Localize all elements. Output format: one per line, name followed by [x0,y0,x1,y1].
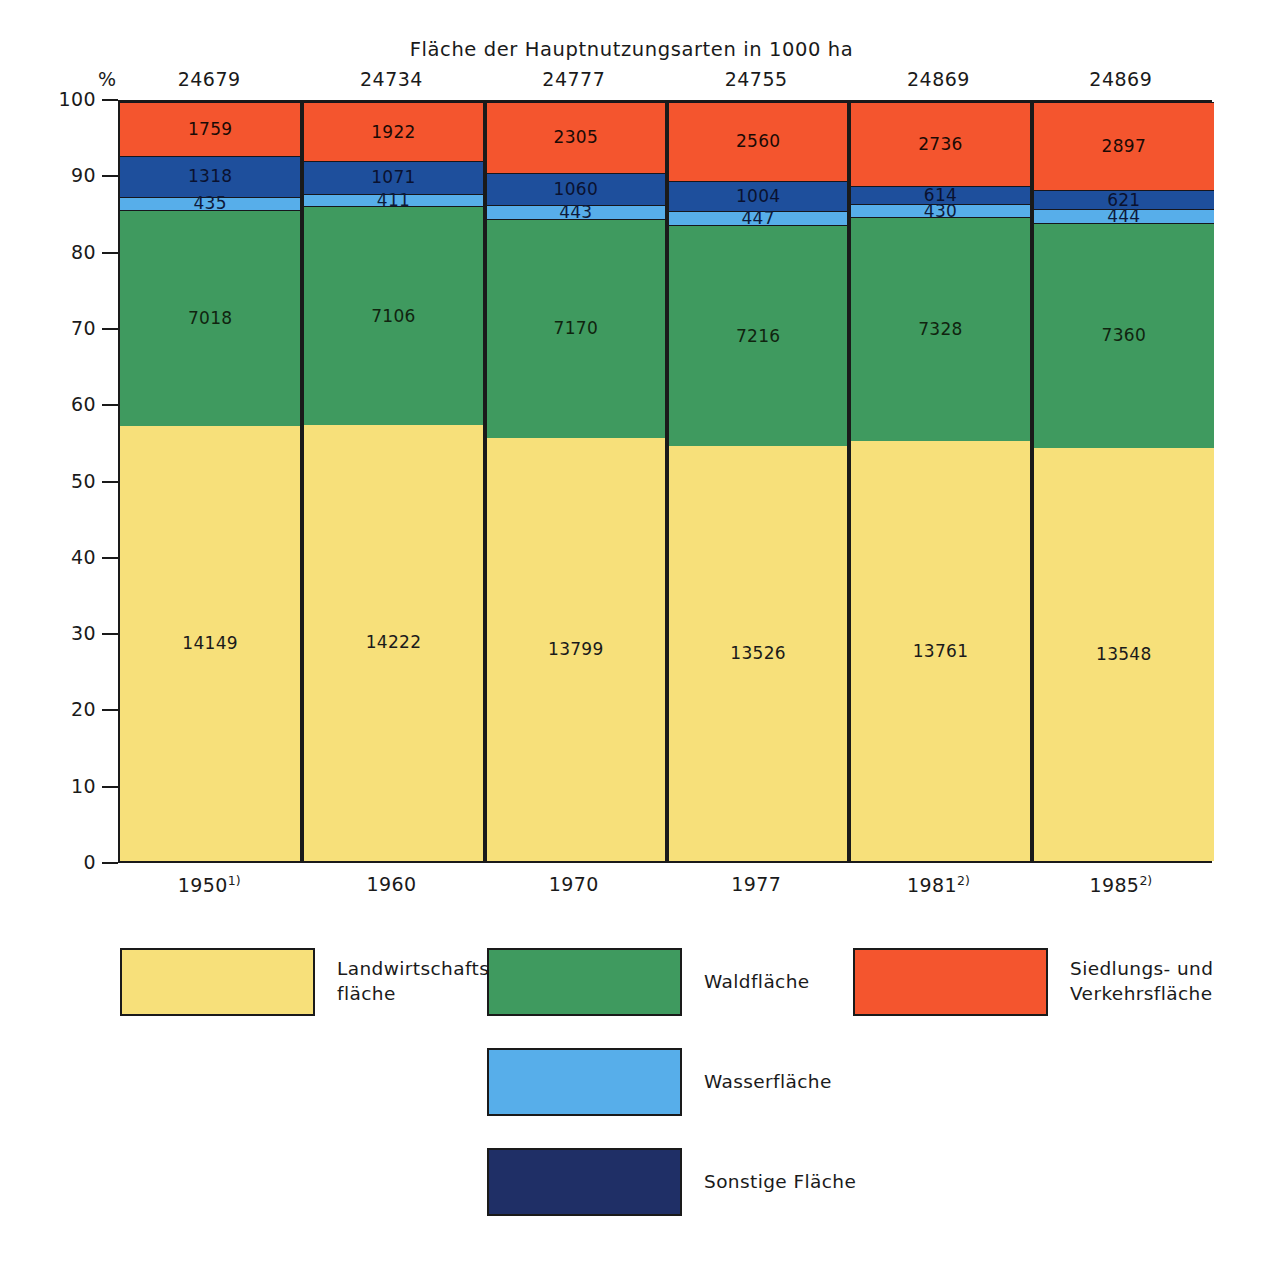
stacked-bar[interactable]: 25601004447721613526 [667,102,849,861]
bar-segment[interactable]: 447 [669,211,847,225]
legend-item-siedl[interactable]: Siedlungs- und Verkehrsfläche [853,948,1213,1016]
bar-segment-value-label: 2897 [1102,138,1146,155]
bar-segment[interactable]: 7018 [120,210,300,426]
bar-segment[interactable]: 7106 [304,206,482,424]
bar-segment[interactable]: 1318 [120,156,300,197]
bar-segment[interactable]: 1004 [669,181,847,212]
y-axis-tick [102,252,118,254]
bar-segment[interactable]: 1060 [487,173,665,205]
stacked-bar[interactable]: 2736614430732813761 [849,102,1031,861]
bar-segment[interactable]: 13548 [1034,448,1214,861]
x-axis-year-text: 1985 [1089,874,1139,896]
bar-segment[interactable]: 13799 [487,438,665,861]
bar-segment-value-label: 1060 [554,181,598,198]
y-axis-tick [102,328,118,330]
bar-segment-value-label: 7170 [554,320,598,337]
legend-item-agri[interactable]: Landwirtschafts- fläche [120,948,496,1016]
legend-color-swatch [853,948,1048,1016]
bar-segment[interactable]: 430 [851,204,1029,217]
x-axis-year-text: 1950 [178,874,228,896]
bar-segment-value-label: 2736 [918,136,962,153]
legend-item-wasser[interactable]: Wasserfläche [487,1048,832,1116]
stacked-bar[interactable]: 19221071411710614222 [302,102,484,861]
bar-segment[interactable]: 7170 [487,219,665,439]
bar-segment-value-label: 1004 [736,188,780,205]
bar-segment-value-label: 7216 [736,328,780,345]
bar-segment[interactable]: 14222 [304,425,482,861]
chart-title: Fläche der Hauptnutzungsarten in 1000 ha [0,38,1263,61]
legend-color-swatch [487,948,682,1016]
x-axis-category-label: 19852) [1030,873,1212,896]
bar-segment[interactable]: 7216 [669,225,847,446]
bar-segment-value-label: 14222 [366,634,422,651]
bar-segment[interactable]: 1759 [120,102,300,156]
bar-segment-value-label: 443 [487,204,665,221]
bar-segment[interactable]: 2897 [1034,102,1214,190]
bar-segment[interactable]: 435 [120,197,300,210]
column-total-label: 24755 [665,68,847,90]
y-axis-tick [102,709,118,711]
bar-segment[interactable]: 13761 [851,441,1029,861]
legend-item-wald[interactable]: Waldfläche [487,948,810,1016]
bar-segment[interactable]: 7360 [1034,223,1214,448]
bar-segment-value-label: 444 [1034,208,1214,225]
bar-segment-value-label: 14149 [182,635,238,652]
x-axis-year-text: 1981 [907,874,957,896]
plot-area: 1759131843570181414919221071411710614222… [118,100,1212,863]
x-axis-year-text: 1970 [549,873,599,895]
x-axis-category-label: 1970 [483,873,665,895]
bar-segment[interactable]: 1071 [304,161,482,194]
y-axis-tick-label: 40 [32,546,96,568]
stacked-bar[interactable]: 17591318435701814149 [120,102,302,861]
legend-color-swatch [120,948,315,1016]
y-axis-tick-label: 20 [32,698,96,720]
y-axis-tick-label: 50 [32,470,96,492]
bar-segment[interactable]: 14149 [120,426,300,861]
y-axis-tick [102,175,118,177]
bar-segment-value-label: 447 [669,210,847,227]
bar-segment-value-label: 2560 [736,133,780,150]
bar-segment[interactable]: 2560 [669,102,847,180]
legend-color-swatch [487,1048,682,1116]
bar-segment[interactable]: 2736 [851,102,1029,186]
bar-segment-value-label: 2305 [554,129,598,146]
x-axis-category-label: 1977 [665,873,847,895]
x-axis-footnote-marker: 2) [957,873,970,888]
y-axis-unit-label: % [98,68,116,90]
bar-segment-value-label: 1318 [188,168,232,185]
bar-segment-value-label: 13526 [730,645,786,662]
bar-segment-value-label: 411 [304,192,482,209]
column-total-label: 24869 [847,68,1029,90]
stacked-bar[interactable]: 2897621444736013548 [1032,102,1214,861]
legend-item-label: Waldfläche [704,970,810,995]
x-axis-category-label: 19812) [847,873,1029,896]
bar-segment-value-label: 7018 [188,310,232,327]
bar-segment[interactable]: 411 [304,194,482,207]
bar-segment-value-label: 13548 [1096,646,1152,663]
y-axis-tick-label: 80 [32,241,96,263]
bar-segment-value-label: 7328 [918,321,962,338]
bar-segment[interactable]: 13526 [669,446,847,861]
y-axis-tick-label: 0 [32,851,96,873]
column-total-label: 24777 [483,68,665,90]
bar-segment[interactable]: 444 [1034,209,1214,223]
bar-segment[interactable]: 7328 [851,217,1029,441]
bar-segment[interactable]: 1922 [304,102,482,161]
y-axis-tick [102,862,118,864]
y-axis-tick-label: 60 [32,393,96,415]
bar-segment-value-label: 7106 [371,308,415,325]
bar-segment-value-label: 1922 [371,124,415,141]
legend-item-sonst[interactable]: Sonstige Fläche [487,1148,856,1216]
bar-segment-value-label: 1759 [188,121,232,138]
stacked-bar[interactable]: 23051060443717013799 [485,102,667,861]
y-axis-tick [102,557,118,559]
bar-segment[interactable]: 443 [487,205,665,219]
legend-item-label: Siedlungs- und Verkehrsfläche [1070,957,1213,1006]
bar-segment-value-label: 13799 [548,641,604,658]
y-axis-tick-label: 100 [32,88,96,110]
x-axis-category-label: 19501) [118,873,300,896]
legend-item-label: Sonstige Fläche [704,1170,856,1195]
y-axis-tick [102,99,118,101]
column-total-label: 24679 [118,68,300,90]
bar-segment[interactable]: 2305 [487,102,665,173]
